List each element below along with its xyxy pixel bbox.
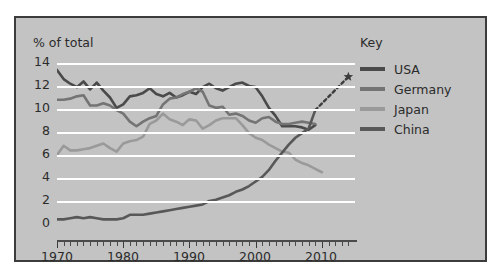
x-axis-tick	[302, 242, 303, 246]
gridline-8	[57, 132, 355, 134]
x-axis-tick	[110, 242, 111, 246]
y-tick-2: 2	[24, 194, 50, 206]
x-axis-tick	[97, 242, 98, 246]
x-axis-tick	[282, 242, 283, 246]
x-axis-line	[57, 240, 357, 242]
legend-label-japan: Japan	[394, 102, 429, 117]
gridline-14	[57, 63, 355, 65]
legend-swatch-china	[360, 127, 385, 131]
x-tick-1980: 1980	[100, 249, 146, 264]
x-axis-tick	[196, 242, 197, 246]
y-tick-0: 0	[24, 217, 50, 229]
x-axis-tick	[189, 242, 190, 248]
y-tick-4: 4	[24, 171, 50, 183]
x-axis-tick	[342, 242, 343, 246]
x-tick-1990: 1990	[166, 249, 212, 264]
legend-swatch-usa	[360, 67, 385, 71]
x-axis-tick	[315, 242, 316, 246]
x-tick-1970: 1970	[34, 249, 80, 264]
projection-line	[315, 77, 348, 110]
x-axis-tick	[242, 242, 243, 246]
x-axis-tick	[229, 242, 230, 246]
x-axis-tick	[117, 242, 118, 246]
x-axis-tick	[262, 242, 263, 246]
legend: Key USA Germany Japan China	[360, 35, 480, 139]
legend-label-china: China	[394, 122, 430, 137]
x-axis-tick	[335, 242, 336, 246]
x-axis-tick	[130, 242, 131, 246]
x-axis-tick	[216, 242, 217, 246]
x-axis-tick	[276, 242, 277, 246]
x-axis-tick	[70, 242, 71, 246]
gridline-4	[57, 178, 355, 180]
x-axis-tick	[143, 242, 144, 246]
legend-swatch-japan	[360, 107, 385, 111]
x-axis-tick	[163, 242, 164, 246]
x-axis-tick	[57, 242, 58, 248]
x-axis-tick	[295, 242, 296, 246]
plot-area	[57, 63, 355, 224]
x-axis-tick	[269, 242, 270, 246]
chart-image: % of total 14 12 10 8 6 4 2 0 1970	[0, 0, 504, 279]
gridline-10	[57, 109, 355, 111]
x-axis-tick	[309, 242, 310, 246]
x-tick-2010: 2010	[298, 249, 344, 264]
x-axis-tick	[249, 242, 250, 246]
x-axis-tick	[329, 242, 330, 246]
x-axis-tick	[103, 242, 104, 246]
legend-item-germany: Germany	[360, 79, 480, 99]
legend-item-usa: USA	[360, 59, 480, 79]
x-axis-tick	[156, 242, 157, 246]
legend-label-germany: Germany	[394, 82, 451, 97]
x-axis-tick	[236, 242, 237, 246]
x-axis-tick	[150, 242, 151, 246]
x-axis-tick	[223, 242, 224, 246]
x-axis-tick	[203, 242, 204, 246]
legend-swatch-germany	[360, 87, 385, 91]
x-axis-tick	[170, 242, 171, 246]
legend-label-usa: USA	[394, 62, 420, 77]
y-tick-8: 8	[24, 125, 50, 137]
x-axis-tick	[90, 242, 91, 246]
x-axis-tick	[77, 242, 78, 246]
gridline-6	[57, 155, 355, 157]
x-axis-tick	[289, 242, 290, 246]
x-axis-tick	[348, 242, 349, 246]
y-axis-labels: 14 12 10 8 6 4 2 0	[20, 18, 50, 264]
x-axis-tick	[176, 242, 177, 246]
gridline-12	[57, 86, 355, 88]
y-tick-6: 6	[24, 148, 50, 160]
x-axis-tick	[322, 242, 323, 248]
gridline-2	[57, 201, 355, 203]
x-axis-tick	[209, 242, 210, 246]
x-axis-tick	[64, 242, 65, 246]
series-line-china	[57, 110, 315, 219]
series-line-japan	[57, 114, 322, 173]
x-axis-tick	[136, 242, 137, 246]
y-tick-10: 10	[24, 102, 50, 114]
legend-title: Key	[360, 35, 480, 50]
x-axis-tick	[256, 242, 257, 248]
x-axis-tick	[123, 242, 124, 248]
y-tick-12: 12	[24, 79, 50, 91]
legend-item-japan: Japan	[360, 99, 480, 119]
x-axis-tick	[183, 242, 184, 246]
legend-item-china: China	[360, 119, 480, 139]
x-tick-2000: 2000	[232, 249, 278, 264]
x-axis-tick	[83, 242, 84, 246]
y-tick-14: 14	[24, 56, 50, 68]
chart-panel: % of total 14 12 10 8 6 4 2 0 1970	[14, 16, 487, 262]
